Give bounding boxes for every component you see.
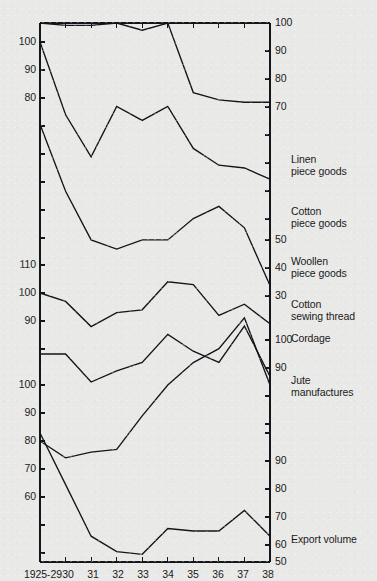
x-axis-tick-label: 38	[238, 568, 298, 580]
left-axis-tick-label: 80	[25, 92, 36, 103]
right-axis-tick-label: 30	[275, 290, 286, 301]
legend-entry: Woollen piece goods	[291, 256, 347, 279]
legend-entry: Cotton sewing thread	[291, 299, 355, 322]
left-axis-tick-label: 60	[25, 491, 36, 502]
chart-root: 10090801101009010090807060 1009080705040…	[0, 0, 377, 581]
left-axis-tick-label: 90	[25, 315, 36, 326]
series-line-cotton-sewing-thread	[40, 282, 270, 327]
right-axis-tick-label: 80	[275, 483, 286, 494]
right-axis-tick-label: 50	[275, 234, 286, 245]
series-line-cordage	[40, 326, 270, 382]
legend-entry: Jute manufactures	[291, 375, 353, 398]
right-axis-tick-label: 80	[275, 73, 286, 84]
left-axis-tick-label: 110	[20, 259, 36, 270]
chart-series-lines	[40, 23, 270, 554]
chart-plot-area	[0, 0, 377, 581]
left-axis-tick-label: 90	[25, 407, 36, 418]
right-axis-tick-label: 90	[275, 362, 286, 373]
chart-axes	[40, 23, 270, 562]
right-axis-tick-label: 100	[275, 17, 292, 28]
right-axis-tick-label: 100	[275, 334, 292, 345]
legend-entry: Export volume	[291, 534, 357, 546]
left-axis-tick-label: 100	[19, 36, 36, 47]
right-axis-tick-label: 40	[275, 262, 286, 273]
right-axis-tick-label: 70	[275, 101, 286, 112]
legend-entry: Cotton piece goods	[291, 206, 347, 229]
left-axis-tick-label: 70	[25, 463, 36, 474]
left-axis-tick-label: 100	[19, 379, 36, 390]
right-axis-tick-label: 60	[275, 539, 286, 550]
legend-entry: Cordage	[291, 333, 331, 345]
left-axis-tick-label: 100	[19, 287, 36, 298]
left-axis-tick-label: 80	[25, 435, 36, 446]
right-axis-tick-label: 70	[275, 511, 286, 522]
series-line-export-volume	[40, 433, 270, 554]
legend-entry: Linen piece goods	[291, 154, 347, 177]
left-axis-tick-label: 90	[25, 64, 36, 75]
series-line-linen-piece-goods	[40, 23, 270, 102]
right-axis-tick-label: 90	[275, 45, 286, 56]
series-line-cotton-piece-goods	[40, 42, 270, 179]
right-axis-tick-label: 50	[275, 556, 286, 567]
series-line-woollen-piece-goods	[40, 124, 270, 285]
right-axis-tick-label: 90	[275, 455, 286, 466]
